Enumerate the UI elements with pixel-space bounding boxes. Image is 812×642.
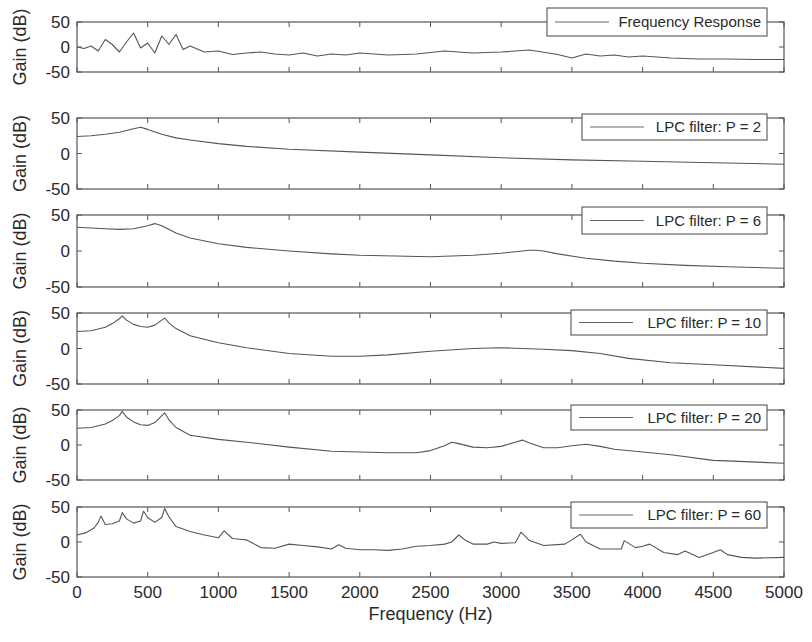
legend-label: LPC filter: P = 10 (647, 314, 761, 331)
y-tick-label: -50 (45, 568, 70, 587)
y-tick-label: -50 (45, 180, 70, 199)
y-tick-label: 0 (61, 145, 70, 164)
x-tick-label: 4000 (624, 583, 662, 602)
y-axis-label: Gain (dB) (10, 115, 30, 192)
y-axis-label: Gain (dB) (10, 310, 30, 387)
y-axis-label: Gain (dB) (10, 8, 30, 85)
legend-label: LPC filter: P = 60 (647, 506, 761, 523)
y-tick-label: 50 (51, 401, 70, 420)
legend-label: LPC filter: P = 20 (647, 409, 761, 426)
y-tick-label: 50 (51, 304, 70, 323)
y-axis-label: Gain (dB) (10, 503, 30, 580)
y-tick-label: 0 (61, 38, 70, 57)
legend-label: LPC filter: P = 2 (656, 118, 761, 135)
x-axis-label: Frequency (Hz) (368, 604, 492, 624)
y-tick-label: -50 (45, 375, 70, 394)
y-axis-label: Gain (dB) (10, 406, 30, 483)
x-tick-label: 3000 (482, 583, 520, 602)
legend-label: Frequency Response (618, 13, 761, 30)
y-tick-label: 50 (51, 498, 70, 517)
y-tick-label: 50 (51, 13, 70, 32)
x-tick-label: 3500 (553, 583, 591, 602)
y-axis-label: Gain (dB) (10, 212, 30, 289)
y-tick-label: -50 (45, 63, 70, 82)
x-tick-label: 0 (72, 583, 81, 602)
y-tick-label: -50 (45, 278, 70, 297)
y-tick-label: 0 (61, 340, 70, 359)
y-tick-label: 0 (61, 533, 70, 552)
y-tick-label: 0 (61, 242, 70, 261)
x-tick-label: 1500 (270, 583, 308, 602)
x-tick-label: 2500 (412, 583, 450, 602)
y-tick-label: 50 (51, 109, 70, 128)
y-tick-label: -50 (45, 471, 70, 490)
x-tick-label: 4500 (694, 583, 732, 602)
x-tick-label: 500 (134, 583, 162, 602)
y-tick-label: 0 (61, 436, 70, 455)
x-tick-label: 1000 (199, 583, 237, 602)
series-line-1 (77, 33, 784, 60)
lpc-spectra-figure: 500-50Gain (dB)Frequency Response500-50G… (0, 0, 812, 642)
legend-label: LPC filter: P = 6 (656, 212, 761, 229)
y-tick-label: 50 (51, 206, 70, 225)
x-tick-label: 5000 (765, 583, 803, 602)
x-tick-label: 2000 (341, 583, 379, 602)
